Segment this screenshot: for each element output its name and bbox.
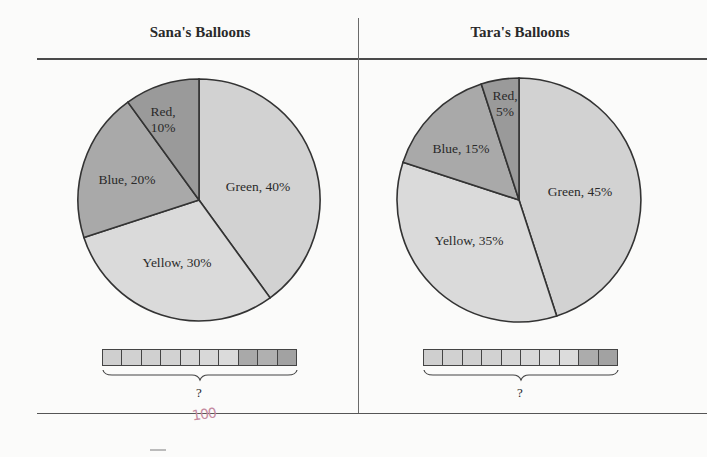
sana-label-yellow: Yellow, 30% bbox=[142, 255, 211, 270]
tape-cell bbox=[122, 350, 141, 365]
tape-cell bbox=[482, 350, 501, 365]
sana-label-green: Green, 40% bbox=[226, 179, 290, 194]
tara-brace-icon bbox=[421, 368, 621, 382]
sana-tape-diagram bbox=[102, 349, 297, 366]
tape-cell bbox=[424, 350, 443, 365]
tara-pie-chart: Red, 5% Blue, 15% Green, 45% Yellow, 35% bbox=[360, 0, 707, 340]
sana-pie-chart: Red, 10% Blue, 20% Green, 40% Yellow, 30… bbox=[0, 0, 360, 340]
tape-cell bbox=[521, 350, 540, 365]
footer-rule bbox=[37, 413, 707, 414]
tara-label-red-1: Red, bbox=[492, 88, 517, 103]
tape-cell bbox=[443, 350, 462, 365]
tape-cell bbox=[502, 350, 521, 365]
tape-cell bbox=[142, 350, 161, 365]
tape-cell bbox=[181, 350, 200, 365]
tape-cell bbox=[278, 350, 296, 365]
sana-brace-icon bbox=[100, 368, 300, 382]
pencil-mark bbox=[150, 449, 166, 451]
tape-cell bbox=[540, 350, 559, 365]
tape-cell bbox=[200, 350, 219, 365]
sana-label-red-2: 10% bbox=[151, 120, 176, 135]
tape-cell bbox=[219, 350, 238, 365]
tape-cell bbox=[161, 350, 180, 365]
tara-label-green: Green, 45% bbox=[548, 184, 612, 199]
tape-cell bbox=[560, 350, 579, 365]
handwritten-answer: 100 bbox=[191, 404, 217, 423]
tara-label-blue: Blue, 15% bbox=[433, 141, 490, 156]
tara-total-label: ? bbox=[510, 385, 530, 401]
tape-cell bbox=[103, 350, 122, 365]
tape-cell bbox=[579, 350, 598, 365]
tara-label-yellow: Yellow, 35% bbox=[434, 233, 503, 248]
tape-cell bbox=[258, 350, 277, 365]
tara-label-red-2: 5% bbox=[496, 104, 514, 119]
tape-cell bbox=[599, 350, 617, 365]
tara-tape-diagram bbox=[423, 349, 618, 366]
sana-label-red-1: Red, bbox=[150, 104, 175, 119]
tape-cell bbox=[239, 350, 258, 365]
sana-total-label: ? bbox=[189, 385, 209, 401]
sana-label-blue: Blue, 20% bbox=[99, 172, 156, 187]
tape-cell bbox=[463, 350, 482, 365]
